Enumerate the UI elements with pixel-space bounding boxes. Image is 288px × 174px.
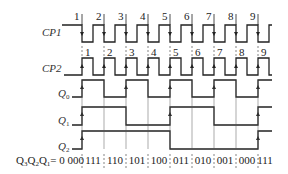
- rising-edge-arrow-icon: [168, 64, 172, 68]
- cp2-waveform: [64, 58, 272, 75]
- timing-diagram: CP1CP2Q0Q1Q2 123456789123456789 Q3Q2Q1= …: [0, 0, 288, 174]
- cp2-edge-number: 4: [151, 46, 157, 58]
- rising-edge-arrow-icon: [80, 64, 84, 68]
- cp1-edge-number: 4: [140, 10, 146, 22]
- cp2-edge-number: 8: [239, 46, 245, 58]
- cp1-edge-number: 7: [206, 10, 212, 22]
- state-value: 001: [217, 154, 234, 166]
- rising-edge-arrow-icon: [212, 64, 216, 68]
- falling-edge-arrow-icon: [190, 32, 194, 36]
- cp1-edge-number: 8: [228, 10, 234, 22]
- state-value: 010: [195, 154, 212, 166]
- state-value: 111: [257, 154, 273, 166]
- rising-edge-arrow-icon: [234, 64, 238, 68]
- state-value: 100: [151, 154, 168, 166]
- q1-label: Q1: [58, 114, 70, 128]
- q2-waveform: [72, 131, 272, 149]
- falling-edge-arrow-icon: [124, 32, 128, 36]
- falling-edge-arrow-icon: [212, 32, 216, 36]
- cp2-edge-number: 5: [173, 46, 179, 58]
- rising-edge-arrow-icon: [146, 64, 150, 68]
- cp2-edge-number: 7: [217, 46, 223, 58]
- rising-edge-arrow-icon: [124, 64, 128, 68]
- cp1-label: CP1: [42, 26, 62, 38]
- state-value: 011: [173, 154, 189, 166]
- falling-edge-arrow-icon: [256, 32, 260, 36]
- q0-waveform: [72, 80, 272, 97]
- q2-label: Q2: [58, 140, 70, 154]
- cp1-edge-number: 1: [74, 10, 80, 22]
- signal-labels: CP1CP2Q0Q1Q2: [42, 26, 70, 154]
- state-value: 101: [129, 154, 146, 166]
- cp2-edge-number: 9: [261, 46, 267, 58]
- state-value: 111: [85, 154, 101, 166]
- rising-edge-arrow-icon: [256, 64, 260, 68]
- cp2-edge-number: 2: [107, 46, 113, 58]
- rising-edge-arrow-icon: [102, 64, 106, 68]
- cp1-waveform: [62, 25, 272, 42]
- state-value: 110: [107, 154, 124, 166]
- cp1-edge-number: 3: [118, 10, 124, 22]
- rising-edge-arrow-icon: [190, 64, 194, 68]
- cp1-edge-number: 5: [162, 10, 168, 22]
- q0-label: Q0: [58, 87, 70, 101]
- falling-edge-arrow-icon: [168, 32, 172, 36]
- cp1-edge-number: 2: [96, 10, 102, 22]
- cp1-edge-number: 6: [184, 10, 190, 22]
- falling-edge-arrow-icon: [80, 32, 84, 36]
- waveforms: [62, 25, 272, 149]
- cp1-edge-number: 9: [250, 10, 256, 22]
- cp2-edge-number: 3: [129, 46, 135, 58]
- cp2-edge-number: 1: [85, 46, 91, 58]
- state-prefix-label: Q3Q2Q1= 0 000: [16, 154, 85, 168]
- falling-edge-arrow-icon: [146, 32, 150, 36]
- falling-edge-arrow-icon: [102, 32, 106, 36]
- cp2-label: CP2: [42, 62, 62, 74]
- state-value: 000: [239, 154, 256, 166]
- state-sequence: Q3Q2Q1= 0 000111110101100011010001000111: [16, 154, 273, 168]
- falling-edge-arrow-icon: [234, 32, 238, 36]
- cp2-edge-number: 6: [195, 46, 201, 58]
